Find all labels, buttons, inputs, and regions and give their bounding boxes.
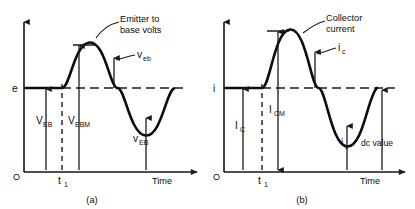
panel-a-veb-leader <box>116 55 135 60</box>
panel-a-t1-subscript: 1 <box>64 181 68 188</box>
figure-container: Emitter to base volts v eb V EB V EBM v … <box>0 0 415 209</box>
panel-b-callout-line2: current <box>326 24 355 34</box>
panel-a-veb-total-subscript: EB <box>139 139 149 146</box>
panel-a-y-axis-label: e <box>12 83 18 94</box>
panel-b-y-axis-label: i <box>213 83 215 94</box>
panel-b-ic-signal-label: i <box>338 42 340 53</box>
panel-b-ic-subscript: C <box>240 126 245 133</box>
panel-b-callout-line1: Collector <box>326 13 362 23</box>
panel-b-icm-label: I <box>269 104 272 115</box>
panel-a-veb-signal-subscript: eb <box>143 55 151 62</box>
panel-b-icm-subscript: CM <box>274 110 285 117</box>
panel-b-ic-leader <box>317 48 336 54</box>
panel-b-ic-total-subscript: c <box>345 143 349 150</box>
panel-a-vebm-label: V <box>68 115 75 126</box>
panel-a-t1-label: t <box>58 175 61 186</box>
panel-a-callout-leader <box>96 22 119 38</box>
panel-a-origin-label: O <box>13 172 20 182</box>
panel-b-t1-subscript: 1 <box>264 181 268 188</box>
panel-a-veb-label: V <box>36 115 43 126</box>
panel-b-t1-label: t <box>258 175 261 186</box>
panel-b-collector-current: Collector current i c I C I CM i c dc va… <box>205 0 415 209</box>
panel-b-ic-label: I <box>235 120 238 131</box>
panel-b-caption: (b) <box>296 194 307 205</box>
panel-b-ic-signal-subscript: c <box>342 48 346 55</box>
panel-b-dc-value-label: dc value <box>361 138 393 148</box>
panel-a-callout-line2: base volts <box>120 25 162 35</box>
panel-a-emitter-base-volts: Emitter to base volts v eb V EB V EBM v … <box>0 0 210 209</box>
panel-a-veb-subscript: EB <box>43 121 53 128</box>
panel-b-callout-leader <box>303 21 325 33</box>
panel-a-x-axis-label: Time <box>152 176 172 186</box>
panel-a-vebm-subscript: EBM <box>75 121 90 128</box>
panel-a-caption: (a) <box>86 194 97 205</box>
panel-b-ic-total-label: i <box>341 137 343 148</box>
panel-b-origin-label: O <box>213 172 220 182</box>
panel-a-callout-line1: Emitter to <box>120 14 159 24</box>
panel-b-x-axis-label: Time <box>360 176 380 186</box>
